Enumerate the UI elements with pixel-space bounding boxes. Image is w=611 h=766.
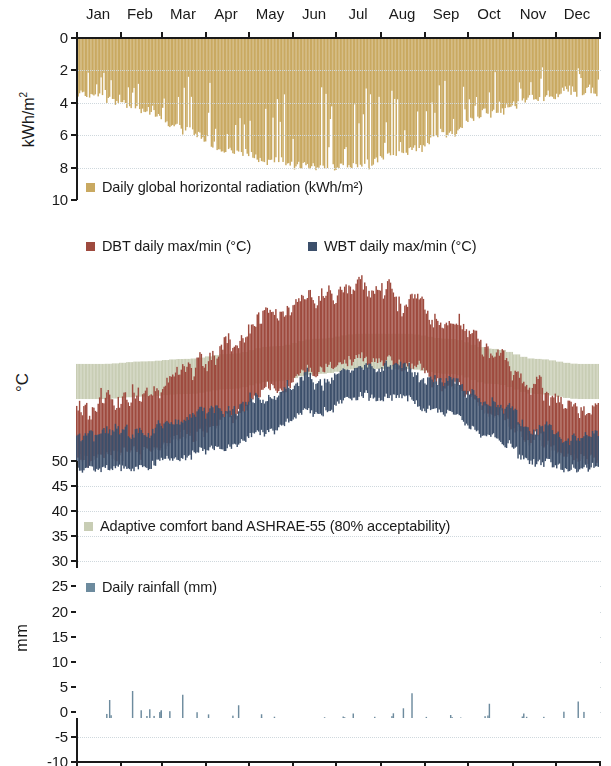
dbt-legend-label: DBT daily max/min (°C)	[102, 239, 251, 254]
temperature-y-tick	[71, 460, 77, 462]
temperature-gridline	[78, 511, 601, 512]
dbt-legend-swatch	[86, 242, 95, 251]
rainfall-y-axis-title: mm	[14, 615, 29, 661]
comfort-band-legend-label: Adaptive comfort band ASHRAE-55 (80% acc…	[100, 519, 450, 534]
radiation-y-tick-label: 8	[20, 160, 68, 175]
radiation-gridline	[78, 103, 601, 104]
temperature-y-tick-label: 45	[20, 478, 68, 493]
temperature-y-axis-title: °C	[15, 363, 30, 403]
temperature-y-tick-label: 40	[20, 503, 68, 518]
comfort-band-legend-swatch	[84, 522, 93, 531]
radiation-series-canvas	[76, 38, 599, 200]
radiation-x-tick	[248, 32, 250, 39]
dbt-legend: DBT daily max/min (°C)	[86, 239, 251, 254]
radiation-y-tick-label: 10	[20, 192, 68, 207]
climate-charts-figure: kWh/m2 0246810JanFebMarAprMayJunJulAugSe…	[0, 0, 611, 766]
radiation-x-axis-line	[76, 37, 601, 39]
radiation-legend-swatch	[86, 183, 95, 192]
rainfall-legend-swatch	[86, 583, 95, 592]
wbt-legend: WBT daily max/min (°C)	[308, 239, 476, 254]
radiation-x-tick	[205, 32, 207, 39]
radiation-x-tick	[76, 32, 78, 39]
temperature-chart-panel: °C -10-505101520253035404550 DBT daily m…	[0, 225, 611, 545]
radiation-y-tick-label: 2	[20, 62, 68, 77]
radiation-y-tick-label: 0	[20, 30, 68, 45]
month-label-dec: Dec	[549, 6, 605, 21]
radiation-x-tick	[292, 32, 294, 39]
radiation-x-tick	[467, 32, 469, 39]
wbt-legend-swatch	[308, 242, 317, 251]
radiation-y-tick	[71, 134, 77, 136]
radiation-x-tick	[335, 32, 337, 39]
rainfall-legend: Daily rainfall (mm)	[86, 580, 217, 595]
radiation-y-tick	[71, 167, 77, 169]
temperature-gridline	[78, 536, 601, 537]
temperature-y-tick	[71, 510, 77, 512]
radiation-x-tick	[512, 32, 514, 39]
radiation-gridline	[78, 168, 601, 169]
radiation-gridline	[78, 70, 601, 71]
radiation-chart-panel: kWh/m2 0246810JanFebMarAprMayJunJulAugSe…	[0, 0, 611, 215]
radiation-legend: Daily global horizontal radiation (kWh/m…	[86, 180, 363, 195]
rainfall-legend-label: Daily rainfall (mm)	[102, 580, 217, 595]
temperature-y-tick	[71, 485, 77, 487]
radiation-y-tick	[71, 69, 77, 71]
radiation-y-axis-line	[76, 38, 78, 200]
comfort-band-legend: Adaptive comfort band ASHRAE-55 (80% acc…	[84, 519, 450, 534]
radiation-y-tick	[71, 199, 77, 201]
temperature-y-tick-label: 50	[20, 453, 68, 468]
radiation-x-tick	[380, 32, 382, 39]
radiation-x-tick	[424, 32, 426, 39]
radiation-x-tick	[555, 32, 557, 39]
radiation-y-axis-title: kWh/m2	[21, 80, 36, 160]
wbt-legend-label: WBT daily max/min (°C)	[324, 239, 476, 254]
radiation-x-tick	[599, 32, 601, 39]
radiation-legend-label: Daily global horizontal radiation (kWh/m…	[102, 180, 363, 195]
temperature-plot-area	[76, 236, 599, 537]
radiation-y-tick	[71, 102, 77, 104]
radiation-y-tick-label: 6	[20, 127, 68, 142]
radiation-gridline	[78, 135, 601, 136]
radiation-x-tick	[120, 32, 122, 39]
temperature-series-canvas	[76, 236, 599, 537]
radiation-y-tick-label: 4	[20, 95, 68, 110]
temperature-y-tick	[71, 535, 77, 537]
radiation-x-tick	[161, 32, 163, 39]
temperature-gridline	[78, 486, 601, 487]
temperature-y-tick-label: 35	[20, 528, 68, 543]
radiation-plot-area	[76, 38, 599, 200]
rainfall-chart-panel: mm 020406080100JanFebMarAprMayJunJulAugS…	[0, 555, 611, 766]
